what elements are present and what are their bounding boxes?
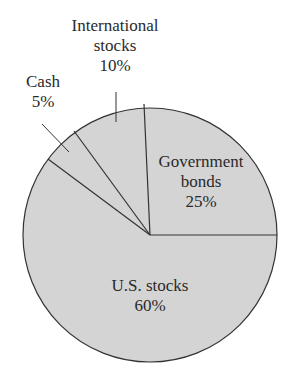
label-value: 10% <box>60 56 170 76</box>
label-cash: Cash 5% <box>18 72 68 112</box>
label-text: U.S. stocks <box>90 276 210 296</box>
label-text: Cash <box>18 72 68 92</box>
label-value: 60% <box>90 296 210 316</box>
label-government-bonds: Government bonds 25% <box>146 152 256 212</box>
label-text: Government <box>146 152 256 172</box>
label-value: 25% <box>146 192 256 212</box>
label-text: bonds <box>146 172 256 192</box>
label-value: 5% <box>18 92 68 112</box>
label-text: stocks <box>60 36 170 56</box>
label-us-stocks: U.S. stocks 60% <box>90 276 210 316</box>
label-international-stocks: International stocks 10% <box>60 16 170 76</box>
label-text: International <box>60 16 170 36</box>
leader-line-cash <box>42 124 69 152</box>
